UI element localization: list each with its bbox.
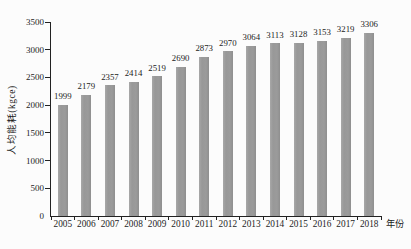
bar: [199, 57, 209, 216]
x-tick-label: 2008: [124, 220, 143, 229]
x-tick-mark: [192, 216, 193, 220]
bar-value-label: 3306: [360, 20, 378, 29]
x-tick-mark: [51, 216, 52, 220]
bar: [176, 67, 186, 216]
bar-value-label: 2690: [172, 54, 190, 63]
x-tick-label: 2014: [266, 220, 285, 229]
y-tick-mark: [45, 132, 50, 133]
bar: [105, 85, 115, 216]
x-tick-label: 2016: [313, 220, 332, 229]
bar-value-label: 2519: [148, 64, 166, 73]
x-tick-mark: [333, 216, 334, 220]
y-tick-mark: [45, 188, 50, 189]
x-axis-title: 年份: [386, 220, 404, 229]
y-tick-mark: [45, 22, 50, 23]
bar-value-label: 3113: [266, 31, 283, 40]
bar-value-label: 3219: [337, 25, 355, 34]
bar-value-label: 1999: [54, 92, 72, 101]
x-tick-mark: [216, 216, 217, 220]
x-tick-label: 2007: [101, 220, 120, 229]
bar-value-label: 3064: [243, 33, 261, 42]
bar-chart-figure: 人均能耗(kgce) 年份 05001000150020002500300035…: [0, 0, 411, 249]
x-tick-mark: [74, 216, 75, 220]
x-tick-label: 2005: [53, 220, 72, 229]
bar-value-label: 2179: [78, 82, 96, 91]
x-tick-label: 2010: [171, 220, 190, 229]
x-tick-label: 2018: [360, 220, 379, 229]
y-tick-label: 2000: [26, 101, 44, 110]
bar-value-label: 2970: [219, 39, 237, 48]
bar: [317, 41, 327, 216]
bar-value-label: 3128: [290, 30, 308, 39]
x-tick-mark: [145, 216, 146, 220]
y-tick-label: 1500: [26, 128, 44, 137]
x-tick-label: 2006: [77, 220, 96, 229]
bar: [364, 33, 374, 216]
plot-area: 年份 0500100015002000250030003500199920052…: [50, 22, 381, 217]
x-tick-mark: [310, 216, 311, 220]
y-tick-label: 3500: [26, 18, 44, 27]
bar: [223, 51, 233, 216]
bar: [246, 46, 256, 216]
x-tick-label: 2011: [195, 220, 213, 229]
bar: [58, 105, 68, 216]
y-tick-label: 1000: [26, 156, 44, 165]
bar: [270, 43, 280, 216]
y-tick-label: 2500: [26, 73, 44, 82]
bar-value-label: 2873: [195, 44, 213, 53]
bar: [81, 95, 91, 216]
bar-value-label: 2357: [101, 73, 119, 82]
y-tick-label: 3000: [26, 45, 44, 54]
x-tick-label: 2015: [289, 220, 308, 229]
y-tick-label: 0: [40, 212, 45, 221]
x-tick-mark: [357, 216, 358, 220]
bar: [129, 82, 139, 216]
bar-value-label: 2414: [125, 69, 143, 78]
y-tick-mark: [45, 105, 50, 106]
y-axis-title: 人均能耗(kgce): [4, 85, 18, 154]
x-tick-mark: [121, 216, 122, 220]
x-tick-label: 2009: [148, 220, 167, 229]
x-tick-mark: [381, 216, 382, 220]
bar: [294, 43, 304, 216]
x-tick-mark: [263, 216, 264, 220]
bar: [152, 76, 162, 216]
x-tick-mark: [239, 216, 240, 220]
y-tick-label: 500: [31, 184, 45, 193]
x-tick-mark: [168, 216, 169, 220]
x-tick-mark: [98, 216, 99, 220]
x-tick-mark: [286, 216, 287, 220]
y-tick-mark: [45, 160, 50, 161]
x-tick-label: 2017: [336, 220, 355, 229]
bar: [341, 38, 351, 216]
x-tick-label: 2012: [218, 220, 237, 229]
y-tick-mark: [45, 49, 50, 50]
x-tick-label: 2013: [242, 220, 261, 229]
bar-value-label: 3153: [313, 28, 331, 37]
y-tick-mark: [45, 77, 50, 78]
